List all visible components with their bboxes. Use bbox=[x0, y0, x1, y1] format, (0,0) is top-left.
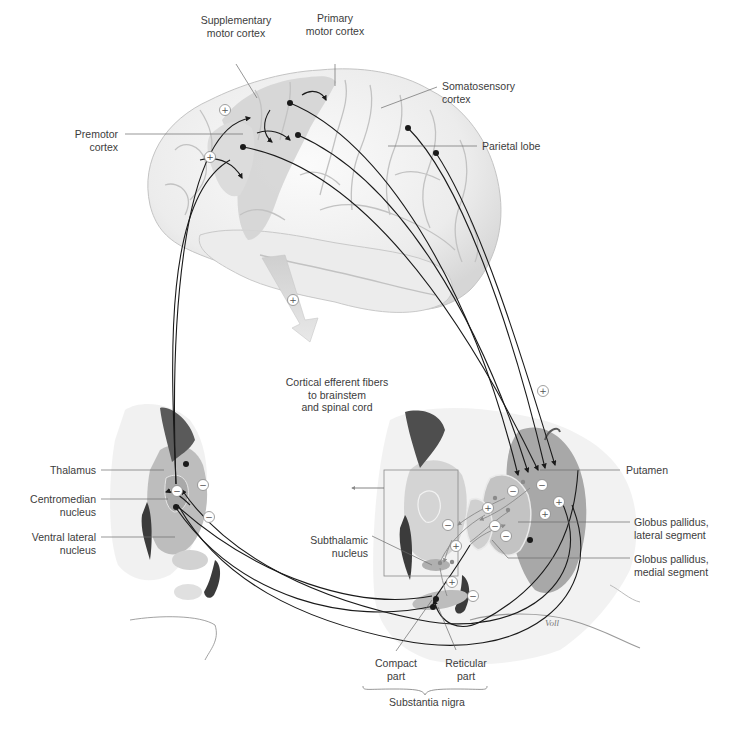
basal-ganglia-diagram: + + + + − − − − − + + + − − − + + − bbox=[0, 0, 730, 741]
excitatory-sign: + bbox=[540, 509, 551, 520]
label-globus-pallidus-lateral: Globus pallidus, lateral segment bbox=[634, 516, 730, 541]
svg-text:−: − bbox=[509, 486, 517, 496]
svg-text:+: + bbox=[539, 386, 547, 396]
subthalamic-nucleus-shape bbox=[422, 559, 450, 571]
svg-text:−: − bbox=[538, 480, 546, 490]
label-parietal-lobe: Parietal lobe bbox=[482, 140, 582, 153]
label-reticular-part: Reticular part bbox=[436, 657, 496, 682]
svg-text:−: − bbox=[199, 480, 207, 490]
svg-text:+: + bbox=[221, 105, 229, 115]
svg-text:−: − bbox=[173, 486, 181, 496]
excitatory-sign: + bbox=[205, 152, 216, 163]
label-premotor-cortex: Premotor cortex bbox=[40, 128, 118, 153]
artist-signature: Voll bbox=[545, 617, 559, 630]
excitatory-sign: + bbox=[554, 497, 565, 508]
svg-text:+: + bbox=[484, 503, 492, 513]
inhibitory-sign: − bbox=[198, 480, 209, 491]
excitatory-sign: + bbox=[451, 541, 462, 552]
label-globus-pallidus-medial: Globus pallidus, medial segment bbox=[634, 553, 730, 578]
inhibitory-sign: − bbox=[501, 531, 512, 542]
svg-text:+: + bbox=[206, 152, 214, 162]
inhibitory-sign: − bbox=[537, 480, 548, 491]
thalamus-section bbox=[110, 404, 220, 660]
brain-lateral-view bbox=[148, 69, 501, 342]
inhibitory-sign: − bbox=[490, 521, 501, 532]
svg-text:+: + bbox=[452, 541, 460, 551]
inhibitory-sign: − bbox=[508, 486, 519, 497]
excitatory-sign: + bbox=[220, 105, 231, 116]
basal-ganglia-section bbox=[352, 408, 640, 664]
svg-text:−: − bbox=[444, 520, 452, 530]
inhibitory-sign: − bbox=[172, 486, 183, 497]
label-substantia-nigra: Substantia nigra bbox=[372, 696, 482, 709]
inhibitory-sign: − bbox=[468, 591, 479, 602]
excitatory-sign: + bbox=[447, 577, 458, 588]
label-cortical-efferent-fibers: Cortical efferent fibers to brainstem an… bbox=[262, 376, 412, 414]
label-primary-motor-cortex: Primary motor cortex bbox=[290, 12, 380, 37]
inhibitory-sign: − bbox=[443, 520, 454, 531]
label-compact-part: Compact part bbox=[366, 657, 426, 682]
svg-text:−: − bbox=[491, 521, 499, 531]
inhibitory-sign: − bbox=[204, 512, 215, 523]
label-putamen: Putamen bbox=[626, 464, 716, 477]
svg-text:−: − bbox=[205, 512, 213, 522]
svg-text:+: + bbox=[289, 295, 297, 305]
svg-text:+: + bbox=[555, 497, 563, 507]
label-subthalamic-nucleus: Subthalamic nucleus bbox=[290, 534, 368, 559]
substantia-nigra-brace bbox=[363, 686, 487, 695]
label-ventral-lateral-nucleus: Ventral lateral nucleus bbox=[10, 531, 96, 556]
label-thalamus: Thalamus bbox=[10, 464, 96, 477]
svg-text:−: − bbox=[502, 531, 510, 541]
svg-text:−: − bbox=[469, 591, 477, 601]
excitatory-sign: + bbox=[538, 386, 549, 397]
excitatory-sign: + bbox=[288, 295, 299, 306]
svg-text:+: + bbox=[448, 577, 456, 587]
svg-text:+: + bbox=[541, 509, 549, 519]
label-supplementary-motor-cortex: Supplementary motor cortex bbox=[186, 14, 286, 39]
diagram-canvas: + + + + − − − − − + + + − − − + + − Sup bbox=[0, 0, 730, 741]
label-centromedian-nucleus: Centromedian nucleus bbox=[10, 493, 96, 518]
label-somatosensory-cortex: Somatosensory cortex bbox=[442, 80, 552, 105]
excitatory-sign: + bbox=[483, 503, 494, 514]
